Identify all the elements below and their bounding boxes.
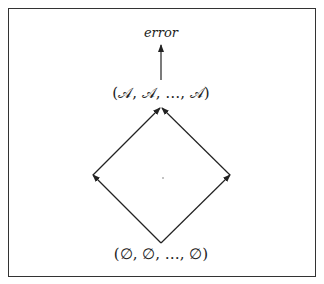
top-node-label: (𝒜, 𝒜, …, 𝒜) <box>112 84 209 102</box>
error-label: error <box>144 25 178 40</box>
edge-bottom-to-right <box>161 175 230 243</box>
lattice-edges <box>0 0 324 284</box>
edge-left-to-top <box>93 108 160 175</box>
bottom-node-label: (∅, ∅, …, ∅) <box>114 245 208 263</box>
center-dot <box>162 177 164 179</box>
edge-right-to-top <box>162 108 230 175</box>
edge-bottom-to-left <box>93 175 161 243</box>
